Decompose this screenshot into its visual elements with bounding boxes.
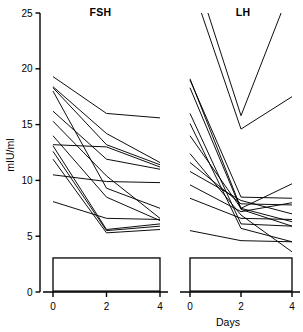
subject-line [190, 163, 292, 205]
y-tick-label: 5 [27, 231, 33, 242]
subject-line [53, 145, 160, 167]
subject-line [53, 136, 160, 221]
x-tick-label: 4 [289, 301, 295, 312]
subject-line [53, 121, 160, 218]
x-tick-label: 0 [50, 301, 56, 312]
subject-line [53, 202, 160, 220]
x-tick-label: 0 [187, 301, 193, 312]
subject-line [190, 0, 292, 129]
figure-container: 0510152025mIU/ml024FSH024LHDays [0, 0, 303, 332]
y-tick-label: 0 [27, 287, 33, 298]
subject-line [190, 154, 292, 252]
subject-line [190, 231, 292, 242]
y-axis-label: mIU/ml [4, 138, 16, 171]
y-tick-label: 20 [21, 63, 33, 74]
series-group-lh [190, 0, 292, 252]
x-tick-label: 2 [238, 301, 244, 312]
x-axis-label: Days [216, 316, 240, 328]
x-tick-label: 2 [104, 301, 110, 312]
subject-line [53, 77, 160, 118]
subject-line [53, 87, 160, 163]
x-tick-label: 4 [157, 301, 163, 312]
subject-line [53, 88, 160, 165]
subject-line [53, 91, 160, 208]
treatment-annotation-box [190, 258, 292, 291]
panel-title-lh: LH [236, 6, 251, 18]
y-tick-label: 25 [21, 8, 33, 19]
y-tick-label: 10 [21, 175, 33, 186]
panel-title-fsh: FSH [90, 6, 112, 18]
series-group-fsh [53, 77, 160, 233]
treatment-annotation-box [53, 258, 160, 291]
y-tick-label: 15 [21, 119, 33, 130]
chart-canvas: 0510152025mIU/ml024FSH024LHDays [0, 0, 303, 332]
